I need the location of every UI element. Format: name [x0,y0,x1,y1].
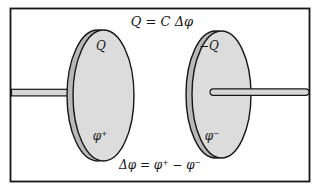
formula-q-equals-c-delta-phi: Q = C Δφ [131,14,194,29]
left-plate-charge-label: Q [96,39,106,53]
right-plate-charge-label: −Q [199,39,219,53]
right-wire [210,89,309,96]
capacitor-diagram-canvas: Q = C Δφ Δφ = φ⁺ − φ⁻ Q φ⁺ −Q φ⁻ [0,0,319,189]
right-plate-potential-label: φ⁻ [205,129,220,143]
capacitor-figure: Q = C Δφ Δφ = φ⁺ − φ⁻ Q φ⁺ −Q φ⁻ [0,0,319,189]
formula-delta-phi-definition: Δφ = φ⁺ − φ⁻ [118,158,201,172]
left-plate-potential-label: φ⁺ [93,129,108,143]
left-wire [12,89,74,96]
